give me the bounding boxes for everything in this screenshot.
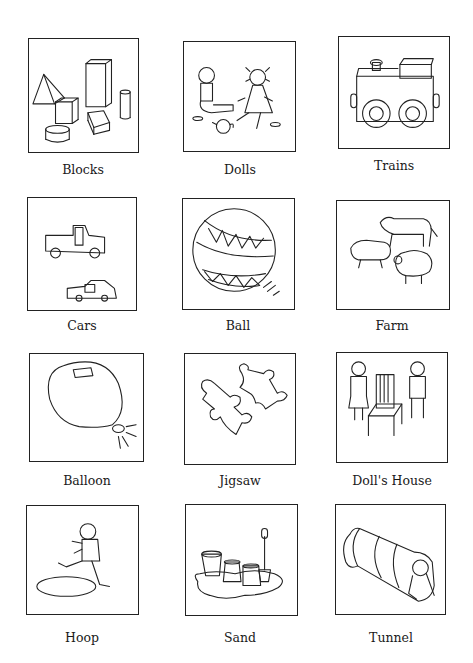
cars-picture-frame: [27, 197, 137, 311]
card-label: Tunnel: [321, 630, 461, 645]
card-label: Hoop: [12, 630, 152, 645]
blocks-picture-frame: [28, 38, 139, 153]
card-label: Dolls: [170, 162, 310, 177]
tunnel-icon: [336, 505, 445, 614]
blocks-icon: [29, 39, 138, 152]
balloon-icon: [30, 354, 143, 461]
ball-icon: [183, 199, 294, 309]
card-label: Farm: [322, 318, 462, 333]
jigsaw-picture-frame: [184, 353, 296, 465]
train-icon: [339, 37, 449, 148]
card-label: Blocks: [13, 162, 153, 177]
farm-animals-icon: [337, 201, 449, 309]
hoop-icon: [27, 506, 138, 614]
card-label: Jigsaw: [170, 473, 310, 488]
trains-picture-frame: [338, 36, 450, 149]
hoop-picture-frame: [26, 505, 139, 615]
card-label: Cars: [12, 318, 152, 333]
sand-icon: [186, 505, 297, 615]
dolls-icon: [184, 42, 295, 151]
dolls-house-picture-frame: [336, 352, 448, 463]
balloon-picture-frame: [29, 353, 144, 462]
ball-picture-frame: [182, 198, 295, 310]
farm-picture-frame: [336, 200, 450, 310]
card-label: Sand: [170, 630, 310, 645]
dolls-picture-frame: [183, 41, 296, 152]
tunnel-picture-frame: [335, 504, 446, 615]
cars-icon: [28, 198, 136, 310]
card-label: Balloon: [17, 473, 157, 488]
card-label: Ball: [168, 318, 308, 333]
dolls-house-icon: [337, 353, 447, 462]
card-label: Trains: [324, 158, 464, 173]
sand-picture-frame: [185, 504, 298, 616]
card-label: Doll's House: [322, 473, 462, 488]
jigsaw-icon: [185, 354, 295, 464]
